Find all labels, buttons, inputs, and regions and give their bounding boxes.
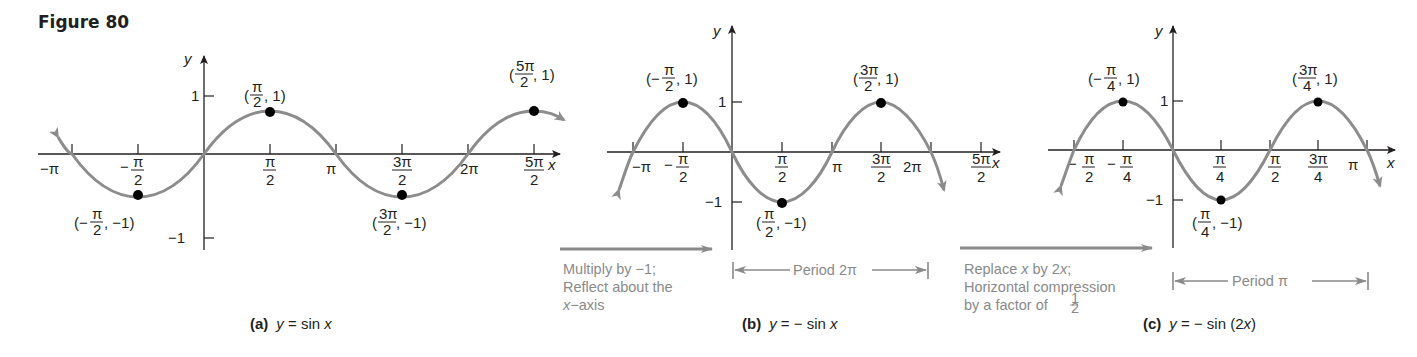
svg-text:π: π (1200, 205, 1210, 222)
svg-text:4: 4 (1303, 77, 1311, 94)
svg-text:2: 2 (679, 168, 687, 185)
svg-text:π: π (678, 150, 688, 167)
figure: Figure 80 y x 1 −1 (0, 0, 1417, 357)
svg-text:π: π (1084, 150, 1094, 167)
svg-text:2: 2 (134, 171, 142, 188)
svg-text:π: π (1122, 150, 1132, 167)
svg-text:, −1): , −1) (104, 214, 134, 231)
svg-text:2: 2 (1085, 168, 1093, 185)
svg-text:2: 2 (1271, 168, 1279, 185)
period-label-c: Period π (1232, 273, 1288, 289)
panel-a: y x 1 −1 −π −π2 π2 π 3π2 2π 5π2 (38, 50, 564, 332)
svg-text:−: − (120, 158, 129, 175)
svg-text:, 1): , 1) (533, 66, 555, 83)
transform-note-c: Replace x by 2x; Horizontal compression … (964, 261, 1120, 313)
svg-text:2: 2 (520, 73, 528, 90)
panel-c: y x 1 −1 −π2 −π4 π4 π2 3π4 π (960, 22, 1395, 332)
transform-note-b: Multiply by −1; Reflect about the x−axis (562, 261, 677, 313)
figure-canvas: y x 1 −1 −π −π2 π2 π 3π2 2π 5π2 (0, 0, 1417, 357)
svg-text:, −1): , −1) (776, 214, 806, 231)
svg-text:2: 2 (530, 171, 538, 188)
svg-text:π: π (832, 158, 842, 175)
svg-text:π: π (133, 153, 143, 170)
svg-text:π: π (777, 150, 787, 167)
svg-text:4: 4 (1201, 223, 1209, 240)
caption-b: (b)y = − sin x (742, 315, 838, 332)
svg-text:(−: (− (74, 214, 88, 231)
svg-text:2: 2 (977, 168, 985, 185)
panel-b: y x 1 −1 −π −π2 π2 π 3π2 2π 5π2 (560, 22, 1000, 332)
svg-text:2: 2 (665, 77, 673, 94)
svg-text:−1: −1 (1146, 191, 1163, 208)
svg-text:x: x (1386, 154, 1395, 171)
svg-text:5π: 5π (972, 150, 991, 167)
svg-text:1: 1 (1160, 92, 1168, 109)
period-label-b: Period 2π (793, 262, 857, 278)
caption-c: (c)y = − sin (2x) (1143, 315, 1256, 332)
y-axis-label: y (183, 50, 193, 67)
svg-text:π: π (265, 153, 275, 170)
svg-text:(: ( (372, 214, 377, 231)
svg-text:2: 2 (1071, 300, 1079, 316)
svg-text:(: ( (244, 87, 249, 104)
svg-text:y: y (1154, 22, 1164, 39)
figure-title: Figure 80 (38, 12, 129, 32)
svg-text:4: 4 (1314, 168, 1322, 185)
svg-text:π: π (1106, 61, 1116, 78)
svg-text:4: 4 (1216, 168, 1224, 185)
svg-text:, 1): , 1) (1118, 70, 1140, 87)
svg-text:2: 2 (778, 168, 786, 185)
x-tick-pi: π (326, 160, 336, 177)
svg-text:x: x (991, 154, 1000, 171)
svg-text:π: π (764, 205, 774, 222)
svg-text:, 1): , 1) (877, 70, 899, 87)
svg-text:5π: 5π (525, 153, 544, 170)
svg-text:, 1): , 1) (264, 87, 286, 104)
svg-text:π: π (92, 205, 102, 222)
svg-text:−π: −π (632, 158, 651, 175)
svg-text:3π: 3π (393, 153, 412, 170)
svg-text:π: π (1348, 156, 1358, 173)
svg-text:3π: 3π (1309, 150, 1328, 167)
svg-text:(: ( (756, 214, 761, 231)
x-tick-neg-pi: −π (40, 160, 59, 177)
svg-text:π: π (1215, 150, 1225, 167)
svg-text:1: 1 (718, 93, 726, 110)
svg-text:(−: (− (646, 70, 660, 87)
svg-text:2: 2 (765, 223, 773, 240)
svg-text:, 1): , 1) (1316, 70, 1338, 87)
y-tick-neg1: −1 (168, 229, 185, 246)
svg-text:2: 2 (253, 93, 261, 110)
svg-text:5π: 5π (516, 57, 535, 74)
svg-text:(: ( (853, 70, 858, 87)
point (133, 190, 143, 200)
svg-text:(: ( (1292, 70, 1297, 87)
y-tick-1: 1 (191, 87, 199, 104)
svg-text:2π: 2π (903, 158, 922, 175)
svg-text:−: − (664, 156, 673, 173)
svg-text:2: 2 (266, 171, 274, 188)
svg-text:2: 2 (93, 221, 101, 238)
svg-text:3π: 3π (379, 205, 398, 222)
svg-text:, −1): , −1) (396, 214, 426, 231)
svg-text:(: ( (509, 66, 514, 83)
svg-text:3π: 3π (872, 150, 891, 167)
svg-text:π: π (664, 61, 674, 78)
svg-text:(: ( (1192, 214, 1197, 231)
svg-text:2: 2 (877, 168, 885, 185)
svg-text:−: − (1107, 155, 1116, 172)
svg-text:2: 2 (383, 221, 391, 238)
point (529, 106, 539, 116)
svg-text:π: π (1270, 150, 1280, 167)
point (397, 190, 407, 200)
caption-a: (a)y = sin x (250, 315, 332, 332)
svg-text:, 1): , 1) (676, 70, 698, 87)
svg-text:(−: (− (1088, 70, 1102, 87)
point (265, 107, 275, 117)
svg-text:2: 2 (398, 171, 406, 188)
svg-text:y: y (712, 22, 722, 39)
svg-text:3π: 3π (1299, 61, 1318, 78)
svg-text:2: 2 (864, 77, 872, 94)
svg-text:−1: −1 (705, 193, 722, 210)
svg-text:4: 4 (1123, 168, 1131, 185)
